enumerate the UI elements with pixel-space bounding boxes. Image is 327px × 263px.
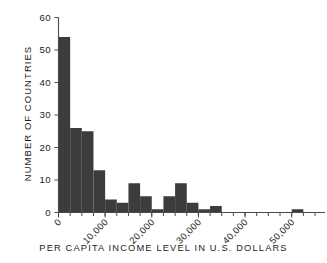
- y-tick-label: 10: [40, 174, 51, 185]
- x-tick-label: 10,000: [80, 216, 110, 246]
- histogram-bar: [59, 37, 71, 213]
- x-tick-label: 20,000: [127, 216, 157, 246]
- y-tick-label: 30: [40, 109, 51, 120]
- histogram-bar: [187, 203, 199, 213]
- histogram-figure: NUMBER OF COUNTRIES PER CAPITA INCOME LE…: [0, 0, 327, 263]
- x-tick-label: 50,000: [267, 216, 297, 246]
- y-tick-label: 0: [45, 207, 51, 218]
- histogram-bar: [70, 128, 82, 213]
- histogram-bar: [117, 203, 129, 213]
- x-tick-label: 30,000: [174, 216, 204, 246]
- histogram-bar: [128, 183, 140, 212]
- y-tick-label: 50: [40, 44, 51, 55]
- y-tick-label: 60: [40, 12, 51, 23]
- histogram-bar: [175, 183, 187, 212]
- histogram-bar: [93, 170, 105, 212]
- y-tick-label: 20: [40, 142, 51, 153]
- y-tick-label: 40: [40, 77, 51, 88]
- histogram-bar: [82, 131, 94, 212]
- plot-area: 0102030405060010,00020,00030,00040,00050…: [0, 0, 327, 263]
- x-tick-label: 0: [52, 216, 64, 228]
- histogram-bar: [105, 200, 117, 213]
- histogram-bar: [140, 196, 152, 212]
- x-tick-label: 40,000: [220, 216, 250, 246]
- histogram-bar: [163, 196, 175, 212]
- histogram-bar: [210, 206, 222, 213]
